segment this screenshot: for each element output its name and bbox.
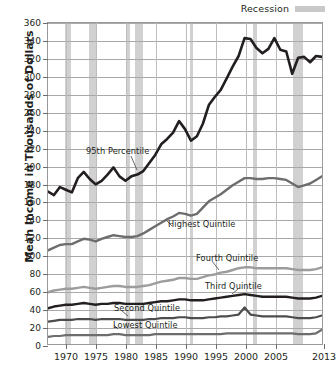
y-axis-tick [43,149,48,150]
y-axis-tick [43,274,48,275]
x-axis-tick-label: 1975 [84,351,108,362]
y-axis-tick [43,202,48,203]
y-axis-tick-label: 80 [30,269,41,279]
annotation-fourth-quintile: Fourth Quintile [196,253,258,263]
plot-inner [48,23,322,344]
x-axis-tick [276,344,277,349]
x-axis-tick [156,344,157,349]
y-axis-tick-label: 220 [24,144,41,154]
x-axis-tick-label: 1995 [204,351,228,362]
y-axis-tick [43,95,48,96]
y-axis-tick-label: 320 [24,54,41,64]
x-axis-tick-label: 1990 [174,351,198,362]
annotation-third-quintile: Third Quintile [205,281,262,291]
series-line-third-quintile [48,294,322,308]
x-axis-tick [96,344,97,349]
y-axis-tick [43,167,48,168]
y-axis-tick [43,220,48,221]
x-axis-tick-label: 2000 [234,351,258,362]
recession-swatch-icon [295,6,325,12]
series-lines [48,23,322,344]
series-line-95th-percentile [48,38,322,195]
chart-legend: Recession [0,0,333,20]
y-axis-tick-label: 340 [24,36,41,46]
annotation-lowest-quintile: Lowest Quintile [113,320,178,330]
y-axis-tick [43,328,48,329]
y-axis-tick-label: 0 [35,341,41,351]
x-axis-tick [66,344,67,349]
y-axis-tick-label: 40 [30,305,41,315]
y-axis-tick [43,131,48,132]
y-axis-tick-label: 240 [24,126,41,136]
x-axis-tick [216,344,217,349]
y-axis-tick-label: 20 [30,323,41,333]
y-axis-tick-label: 120 [24,233,41,243]
y-axis-tick [43,185,48,186]
y-axis-tick-label: 60 [30,287,41,297]
x-axis-tick [246,344,247,349]
annotation-highest-quintile: Highest Quintile [168,219,235,229]
y-axis-tick [43,292,48,293]
y-axis-tick [43,310,48,311]
y-axis-tick [43,113,48,114]
x-axis-tick-label: 1985 [144,351,168,362]
y-axis-tick [43,59,48,60]
annotation-second-quintile: Second Quintile [114,303,180,313]
y-axis-tick-label: 280 [24,90,41,100]
annotation-95th-percentile: 95th Percentile [86,146,149,156]
y-axis-tick-label: 140 [24,215,41,225]
y-axis-tick [43,77,48,78]
y-axis-tick-label: 300 [24,72,41,82]
x-axis-tick-label: 1970 [54,351,78,362]
legend-label-recession: Recession [241,3,289,14]
x-axis-tick-label: 1980 [114,351,138,362]
y-axis-tick [43,256,48,257]
series-line-highest-quintile [48,176,322,250]
y-axis-tick-label: 200 [24,162,41,172]
plot-area: 0204060801001201401601802002202402602803… [47,22,323,345]
x-axis-tick [186,344,187,349]
y-axis-tick-label: 180 [24,180,41,190]
x-axis-tick [126,344,127,349]
y-axis-tick [43,41,48,42]
y-axis-tick-label: 160 [24,197,41,207]
y-axis-tick-label: 260 [24,108,41,118]
y-axis-tick [43,238,48,239]
y-axis-tick [43,23,48,24]
y-axis-tick [43,346,48,347]
series-line-fourth-quintile [48,267,322,292]
x-axis-tick-label: 2005 [264,351,288,362]
y-axis-tick-label: 100 [24,251,41,261]
series-line-second-quintile [48,307,322,321]
series-line-lowest-quintile [48,330,322,337]
x-axis-tick-label: 2013 [312,351,336,362]
y-axis-tick-label: 360 [24,18,41,28]
x-axis-tick [324,344,325,349]
